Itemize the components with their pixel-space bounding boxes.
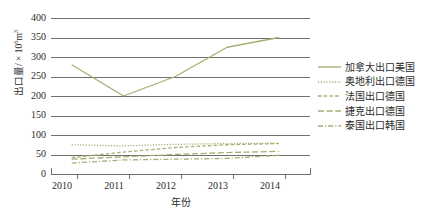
legend-item-3[interactable]: 捷克出口德国 bbox=[318, 104, 431, 119]
legend-label-1: 奥地利出口德国 bbox=[345, 76, 415, 87]
x-tick-label-2010: 2010 bbox=[42, 180, 82, 191]
series-line-0 bbox=[72, 38, 279, 97]
chart-legend: 加拿大出口美国 奥地利出口德国 法国出口德国 捷克出口德国 泰国出口韩国 bbox=[318, 60, 431, 133]
y-tick-label-300: 300 bbox=[16, 52, 46, 62]
legend-label-4: 泰国出口韩国 bbox=[345, 120, 405, 131]
legend-label-3: 捷克出口德国 bbox=[345, 106, 405, 117]
legend-label-2: 法国出口德国 bbox=[345, 91, 405, 102]
x-tick-mark-0 bbox=[77, 174, 78, 179]
y-tick-label-350: 350 bbox=[16, 32, 46, 42]
y-tick-label-0: 0 bbox=[16, 169, 46, 179]
x-tick-label-2012: 2012 bbox=[146, 180, 186, 191]
x-axis-left-cap bbox=[51, 168, 52, 175]
y-tick-label-250: 250 bbox=[16, 71, 46, 81]
x-tick-mark-2 bbox=[181, 174, 182, 179]
x-tick-mark-4 bbox=[285, 174, 286, 179]
x-tick-label-2013: 2013 bbox=[198, 180, 238, 191]
legend-item-0[interactable]: 加拿大出口美国 bbox=[318, 60, 431, 75]
legend-item-4[interactable]: 泰国出口韩国 bbox=[318, 118, 431, 133]
legend-item-2[interactable]: 法国出口德国 bbox=[318, 89, 431, 104]
chart-container: 出口量/ × 106m3 400 350 300 250 200 150 100… bbox=[0, 0, 431, 215]
series-line-3 bbox=[72, 151, 279, 159]
y-tick-label-200: 200 bbox=[16, 91, 46, 101]
legend-item-1[interactable]: 奥地利出口德国 bbox=[318, 75, 431, 90]
legend-line-icon-0 bbox=[318, 62, 341, 72]
series-line-4 bbox=[72, 155, 279, 163]
x-tick-mark-1 bbox=[129, 174, 130, 179]
x-tick-label-2014: 2014 bbox=[250, 180, 290, 191]
y-tick-label-400: 400 bbox=[16, 13, 46, 23]
y-tick-label-100: 100 bbox=[16, 130, 46, 140]
plot-area bbox=[51, 18, 310, 174]
legend-line-icon-4 bbox=[318, 121, 341, 131]
top-caption-strip bbox=[60, 0, 420, 5]
series-line-1 bbox=[72, 143, 279, 146]
x-tick-mark-3 bbox=[233, 174, 234, 179]
x-tick-label-2011: 2011 bbox=[94, 180, 134, 191]
y-tick-label-150: 150 bbox=[16, 110, 46, 120]
legend-line-icon-3 bbox=[318, 106, 341, 116]
legend-label-0: 加拿大出口美国 bbox=[345, 62, 415, 73]
legend-line-icon-1 bbox=[318, 77, 341, 87]
series-layer bbox=[51, 18, 310, 174]
x-axis-title: 年份 bbox=[51, 194, 310, 209]
x-axis-right-cap bbox=[310, 168, 311, 175]
legend-line-icon-2 bbox=[318, 91, 341, 101]
y-tick-label-50: 50 bbox=[16, 149, 46, 159]
